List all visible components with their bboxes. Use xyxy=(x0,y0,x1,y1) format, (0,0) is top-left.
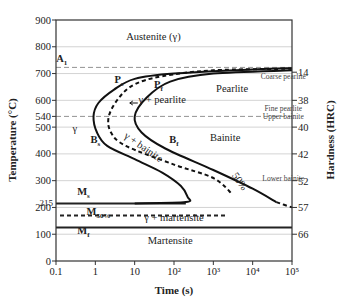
hardness-tick-label: 57 xyxy=(298,202,309,213)
arrow-icon xyxy=(130,101,138,105)
annotation: Austenite (γ) xyxy=(126,31,181,43)
annotation: Coarse pearlite xyxy=(261,72,307,81)
annotation: γ xyxy=(71,123,77,134)
annotation: Pearlite xyxy=(216,83,248,94)
x-axis-title: Time (s) xyxy=(155,284,194,297)
y-tick-label: 0 xyxy=(46,256,51,267)
y-axis-ticks: 0100200300400500540600700800900215 xyxy=(35,15,56,267)
y-tick-label: 215 xyxy=(40,198,54,208)
x-axis-ticks: 0.111010²10³10⁴10⁵ xyxy=(49,261,299,277)
annotation: Ms xyxy=(77,186,90,200)
y-tick-label: 540 xyxy=(35,111,51,122)
x-tick-label: 10 xyxy=(129,266,140,277)
annotation: γ + pearlite xyxy=(138,94,187,105)
hardness-tick-label: 42 xyxy=(298,149,309,160)
y-tick-label: 600 xyxy=(35,95,51,106)
x-tick-label: 10⁴ xyxy=(246,266,261,277)
annotation: 50% xyxy=(230,170,250,192)
annotation: Martensite xyxy=(148,235,193,246)
x-tick-label: 10² xyxy=(167,266,181,277)
hardness-axis-ticks: 14384042525766 xyxy=(292,67,309,240)
annotation: Upper bainite xyxy=(263,112,305,121)
annotation: Bainite xyxy=(210,132,241,143)
y-axis-title: Temperature (°C) xyxy=(6,98,19,182)
curve-finish-extrapolated xyxy=(276,202,292,207)
hardness-tick-label: 40 xyxy=(298,122,309,133)
ttt-diagram: 0100200300400500540600700800900215 0.111… xyxy=(0,0,344,308)
x-tick-label: 10³ xyxy=(207,266,221,277)
y-tick-label: 500 xyxy=(35,122,51,133)
y-tick-label: 900 xyxy=(35,15,51,26)
y-tick-label: 100 xyxy=(35,229,51,240)
x-tick-label: 0.1 xyxy=(49,266,62,277)
annotation: A1 xyxy=(56,53,68,67)
y-tick-label: 300 xyxy=(35,175,51,186)
y-tick-label: 700 xyxy=(35,68,51,79)
y-tick-label: 400 xyxy=(35,148,51,159)
hardness-tick-label: 66 xyxy=(298,229,309,240)
x-tick-label: 1 xyxy=(93,266,98,277)
annotation: Lower bainite xyxy=(262,174,305,183)
y-tick-label: 800 xyxy=(35,41,51,52)
annotation: M50% xyxy=(86,206,110,220)
hardness-axis-title: Hardness (HRC) xyxy=(324,100,337,179)
annotations: Austenite (γ)A1PsPfPearliteγ + pearliteC… xyxy=(56,31,306,246)
x-tick-label: 10⁵ xyxy=(285,266,300,277)
annotation: Bf xyxy=(169,134,179,148)
annotation: γ + martensite xyxy=(143,212,204,223)
